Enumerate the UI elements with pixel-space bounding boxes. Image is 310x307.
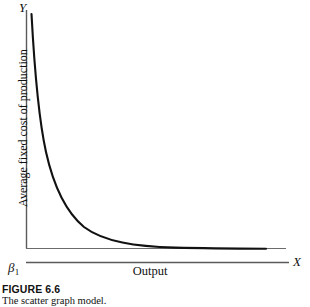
figure-caption: FIGURE 6.6 The scatter graph model. [2, 283, 308, 307]
figure-caption-title: FIGURE 6.6 [2, 283, 308, 295]
chart-canvas [0, 0, 310, 282]
y-axis-symbol: Y [19, 1, 26, 14]
average-fixed-cost-curve [32, 14, 267, 249]
y-axis-title: Average fixed cost of production [17, 28, 29, 228]
plot-area: Y X β1 Output Average fixed cost of prod… [0, 0, 310, 282]
x-axis-title: Output [0, 265, 300, 278]
figure-caption-subtitle: The scatter graph model. [2, 295, 308, 307]
